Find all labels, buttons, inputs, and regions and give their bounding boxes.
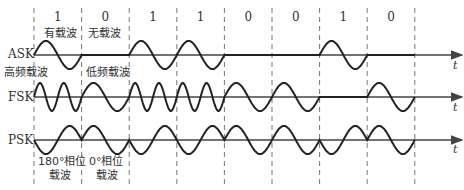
psk-180-annotation-line1: 180°相位: [38, 154, 87, 168]
bit-label: 0: [292, 10, 300, 24]
fsk-high-annotation: 高频载波: [4, 65, 48, 79]
bit-label: 1: [340, 10, 348, 24]
psk-180-annotation-line2: 载波: [49, 169, 71, 182]
ask-carrier-annotation: 有载波: [44, 26, 77, 40]
bit-label: 1: [149, 10, 157, 24]
psk-0-annotation-line1: 0°相位: [89, 154, 124, 168]
ask-no-carrier-annotation: 无载波: [88, 27, 121, 40]
bit-label: 1: [197, 10, 205, 24]
row-label-ask: ASK: [7, 47, 35, 61]
bit-label: 0: [102, 10, 110, 24]
bit-label: 0: [244, 10, 252, 24]
bit-label: 1: [54, 10, 62, 24]
ask-t-label: t: [453, 59, 458, 72]
fsk-low-annotation: 低频载波: [86, 65, 130, 79]
bit-label: 0: [387, 10, 395, 24]
psk-0-annotation-line2: 载波: [96, 169, 118, 182]
row-label-fsk: FSK: [8, 90, 35, 104]
psk-t-label: t: [453, 143, 458, 156]
modulation-diagram: 10110010 有载波 无载波 高频载波 低频载波 180°相位 载波 0°相…: [0, 0, 464, 190]
row-label-psk: PSK: [8, 133, 34, 147]
fsk-t-label: t: [453, 101, 458, 114]
